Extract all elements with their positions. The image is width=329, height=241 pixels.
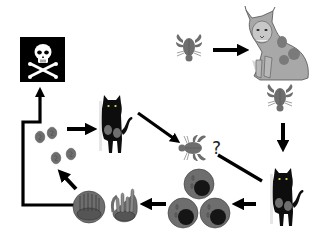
crayfish-icon — [267, 84, 293, 112]
infected-cells-icon — [168, 169, 230, 228]
sporocyst-icon — [73, 189, 137, 223]
crayfish-icon — [176, 34, 202, 62]
arrow-to-death — [23, 92, 74, 205]
arrow-sporocysts-to-oocysts — [62, 174, 76, 189]
arrow-cat-to-crayfish — [138, 113, 176, 140]
crayfish-icon — [179, 135, 207, 161]
black-cat-icon — [270, 168, 304, 226]
arrow-crayfish-to-cat-right — [218, 155, 262, 181]
oocysts-icon — [35, 127, 76, 164]
uncertainty-mark: ? — [212, 138, 221, 158]
black-cat-icon — [99, 95, 133, 153]
skull-crossbones-icon — [20, 37, 65, 82]
lynx-icon — [245, 6, 308, 80]
life-cycle-diagram — [0, 0, 329, 241]
